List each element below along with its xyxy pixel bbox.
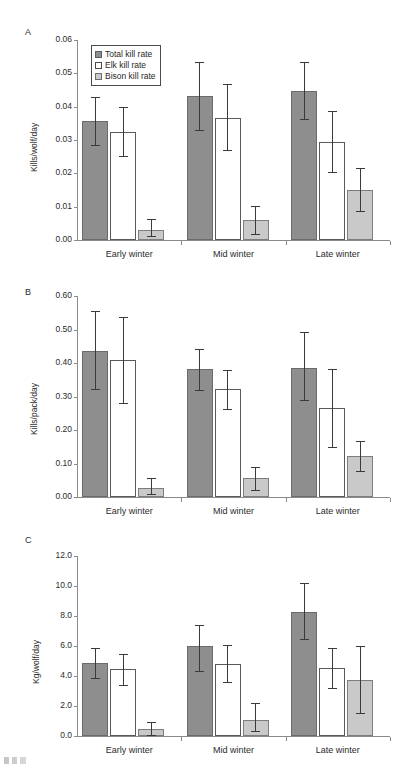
errorbar-cap-upper — [195, 349, 204, 350]
errorbar-cap-lower — [328, 688, 337, 689]
errorbar-cap-upper — [251, 206, 260, 207]
errorbar-cap-upper — [328, 369, 337, 370]
errorbar-stem — [255, 206, 256, 235]
errorbar-c-elk-0 — [123, 654, 124, 686]
panel-a-y-tick-label: 0.05 — [31, 68, 72, 77]
errorbar-a-total-2 — [304, 62, 305, 119]
errorbar-stem — [227, 84, 228, 150]
panel-b-y-tick-label: 0.40 — [31, 358, 72, 367]
panel-c-y-tick — [74, 556, 77, 557]
panel-b-y-axis — [77, 296, 78, 498]
panel-a-x-tick — [286, 241, 287, 245]
panel-b-x-tick-label-1: Mid winter — [181, 506, 285, 516]
errorbar-stem — [227, 370, 228, 409]
panel-b-y-tick-label: 0.60 — [31, 291, 72, 300]
panel-c-y-tick — [74, 736, 77, 737]
legend-swatch-bison — [95, 73, 102, 80]
panel-b-y-tick — [74, 430, 77, 431]
panel-a-y-tick — [74, 107, 77, 108]
panel-a-x-axis — [77, 240, 390, 241]
errorbar-stem — [199, 62, 200, 132]
panel-c-letter: C — [25, 536, 32, 545]
errorbar-cap-upper — [328, 648, 337, 649]
errorbar-cap-lower — [195, 671, 204, 672]
errorbar-cap-lower — [251, 731, 260, 732]
errorbar-cap-lower — [147, 236, 156, 237]
panel-b-y-tick — [74, 296, 77, 297]
panel-b-y-tick-label: 0.30 — [31, 392, 72, 401]
errorbar-c-total-2 — [304, 583, 305, 640]
errorbar-cap-upper — [356, 646, 365, 647]
panel-c-y-tick — [74, 586, 77, 587]
errorbar-stem — [304, 583, 305, 640]
errorbar-stem — [151, 478, 152, 495]
errorbar-stem — [360, 441, 361, 471]
errorbar-cap-lower — [223, 409, 232, 410]
errorbar-cap-upper — [195, 62, 204, 63]
errorbar-c-total-1 — [199, 625, 200, 672]
panel-c-y-tick-label: 0.0 — [31, 731, 72, 740]
panel-a-x-tick — [181, 241, 182, 245]
errorbar-stem — [123, 317, 124, 404]
panel-a-y-tick-label: 0.00 — [31, 235, 72, 244]
errorbar-cap-lower — [119, 156, 128, 157]
errorbar-cap-upper — [119, 654, 128, 655]
errorbar-c-elk-1 — [227, 645, 228, 683]
panel-a-y-axis — [77, 40, 78, 241]
errorbar-cap-upper — [223, 84, 232, 85]
errorbar-stem — [332, 111, 333, 173]
panel-a-x-tick-label-0: Early winter — [77, 249, 181, 259]
errorbar-b-bison-1 — [255, 467, 256, 491]
errorbar-stem — [95, 311, 96, 390]
errorbar-stem — [332, 369, 333, 448]
panel-b-y-tick-label: 0.50 — [31, 325, 72, 334]
errorbar-cap-upper — [147, 219, 156, 220]
errorbar-b-elk-2 — [332, 369, 333, 448]
panel-c-y-tick — [74, 646, 77, 647]
errorbar-cap-lower — [147, 735, 156, 736]
panel-a-y-tick-label: 0.06 — [31, 35, 72, 44]
panel-a-y-tick — [74, 173, 77, 174]
errorbar-stem — [199, 349, 200, 392]
errorbar-cap-upper — [91, 648, 100, 649]
panel-b-x-tick — [181, 498, 182, 502]
errorbar-stem — [360, 168, 361, 211]
errorbar-cap-lower — [251, 490, 260, 491]
errorbar-stem — [255, 467, 256, 491]
panel-b-y-tick — [74, 397, 77, 398]
errorbar-cap-lower — [300, 400, 309, 401]
errorbar-stem — [304, 332, 305, 401]
errorbar-c-elk-2 — [332, 648, 333, 689]
errorbar-cap-upper — [328, 111, 337, 112]
errorbar-stem — [332, 648, 333, 689]
errorbar-cap-upper — [356, 168, 365, 169]
panel-b-y-tick — [74, 363, 77, 364]
panel-a-ylabel: Kills/wolf/day — [30, 123, 39, 172]
panel-b-y-tick-label: 0.20 — [31, 425, 72, 434]
panel-b-x-tick — [390, 498, 391, 502]
panel-c-x-tick — [286, 737, 287, 741]
legend-label-total: Total kill rate — [105, 50, 152, 59]
errorbar-cap-lower — [328, 172, 337, 173]
errorbar-b-bison-2 — [360, 441, 361, 471]
errorbar-c-bison-0 — [151, 722, 152, 736]
panel-c-y-tick-label: 10.0 — [31, 581, 72, 590]
errorbar-cap-lower — [356, 471, 365, 472]
errorbar-c-bison-2 — [360, 646, 361, 714]
errorbar-cap-upper — [119, 107, 128, 108]
errorbar-stem — [123, 654, 124, 686]
panel-a-x-tick — [390, 241, 391, 245]
panel-b-x-tick-label-2: Late winter — [286, 506, 390, 516]
figure-wolf-kill-rates: A Kills/wolf/day B Kills/pack/day C Kg/w… — [0, 0, 408, 769]
errorbar-stem — [255, 703, 256, 732]
errorbar-stem — [360, 646, 361, 714]
errorbar-c-bison-1 — [255, 703, 256, 732]
panel-a-y-tick — [74, 240, 77, 241]
errorbar-cap-lower — [119, 403, 128, 404]
errorbar-cap-lower — [91, 145, 100, 146]
errorbar-cap-lower — [300, 639, 309, 640]
panel-c-x-tick — [181, 737, 182, 741]
panel-b-x-axis — [77, 497, 390, 498]
errorbar-cap-lower — [300, 119, 309, 120]
panel-a-y-tick — [74, 140, 77, 141]
